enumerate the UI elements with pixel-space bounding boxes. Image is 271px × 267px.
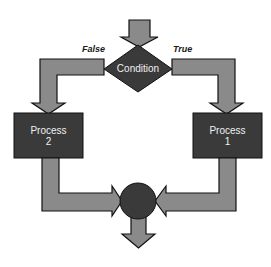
process-2-title: Process — [14, 125, 83, 136]
process-1-label: Process 1 — [193, 125, 262, 147]
merge-node — [120, 183, 156, 219]
process-2-number: 2 — [14, 136, 83, 147]
process-1-to-merge-arrow — [155, 158, 236, 216]
false-branch-arrow — [32, 59, 104, 114]
true-branch-label: True — [173, 44, 192, 54]
process-2-label: Process 2 — [14, 125, 83, 147]
process-1-number: 1 — [193, 136, 262, 147]
process-2-to-merge-arrow — [42, 158, 122, 216]
true-branch-arrow — [172, 59, 243, 114]
entry-arrow — [121, 20, 158, 47]
exit-arrow — [122, 216, 155, 248]
decision-label: Condition — [104, 63, 172, 74]
process-1-title: Process — [193, 125, 262, 136]
false-branch-label: False — [82, 44, 105, 54]
